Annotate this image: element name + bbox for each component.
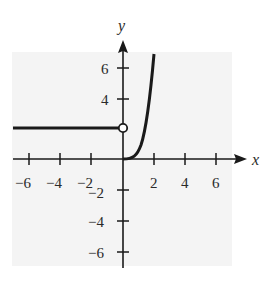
x-tick-label: −6 — [15, 175, 31, 191]
y-axis-label: y — [116, 17, 126, 35]
y-tick-label: −4 — [88, 214, 104, 230]
y-tick-label: 6 — [101, 61, 109, 77]
x-axis-label: x — [251, 151, 259, 168]
x-tick-label: 2 — [150, 175, 158, 191]
y-tick-label: 4 — [101, 92, 109, 108]
piecewise-function-graph: x y −6 −4 −2 2 4 6 6 4 −2 −4 −6 — [0, 0, 267, 287]
x-tick-label: −4 — [46, 175, 62, 191]
y-tick-label: −6 — [88, 245, 104, 261]
y-tick-label: −2 — [88, 185, 104, 201]
x-tick-label: 6 — [212, 175, 220, 191]
x-tick-label: 4 — [181, 175, 189, 191]
open-circle-endpoint — [119, 124, 127, 132]
